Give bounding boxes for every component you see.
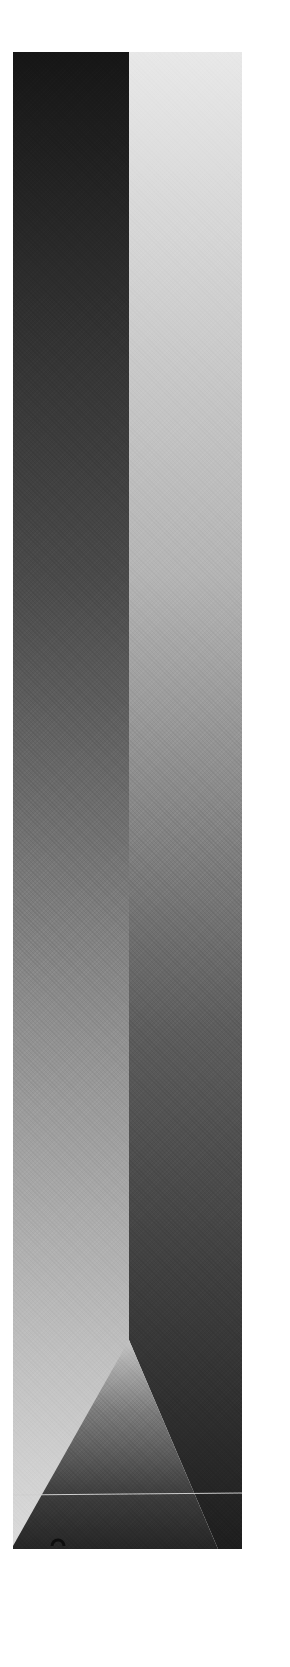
abstract-artwork bbox=[13, 52, 242, 1549]
left-gradient-panel bbox=[13, 52, 129, 1549]
right-gradient-panel bbox=[129, 52, 242, 1549]
artwork-canvas bbox=[13, 52, 242, 1549]
